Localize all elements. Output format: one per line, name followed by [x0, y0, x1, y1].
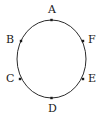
point-marker-c	[19, 78, 21, 80]
vertex-label-b: B	[6, 34, 14, 45]
point-marker-e	[82, 78, 84, 80]
point-marker-d	[50, 97, 52, 99]
point-marker-f	[82, 40, 84, 42]
circle-diagram-figure: A B C D E F	[0, 0, 103, 120]
point-marker-b	[20, 40, 22, 42]
vertex-label-c: C	[6, 73, 14, 84]
circle-outline	[17, 20, 86, 98]
vertex-label-e: E	[88, 73, 96, 84]
vertex-label-a: A	[48, 4, 56, 15]
vertex-label-d: D	[48, 103, 57, 114]
point-marker-a	[50, 19, 52, 21]
vertex-label-f: F	[88, 34, 96, 45]
